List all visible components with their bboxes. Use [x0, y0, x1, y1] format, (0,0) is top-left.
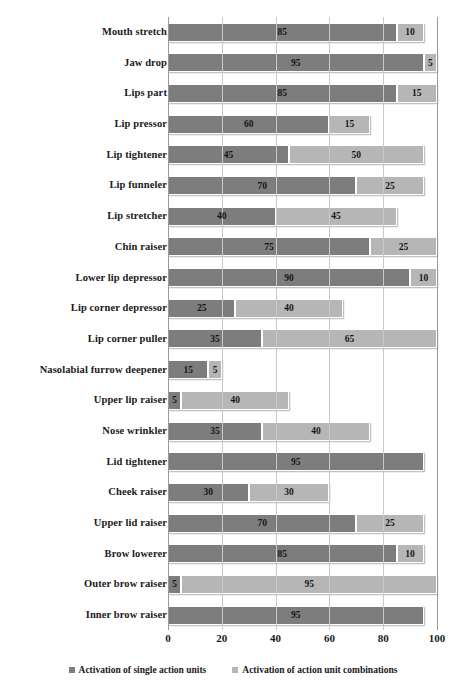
category-label: Lip corner puller	[88, 324, 167, 355]
chart-row: Lower lip depressor9010	[0, 263, 466, 294]
bar-value-label: 50	[352, 150, 362, 160]
bar-segment-dark: 45	[168, 145, 289, 164]
category-label: Mouth stretch	[102, 17, 167, 48]
bar-value-label: 15	[412, 88, 422, 98]
chart-row: Brow lowerer8510	[0, 539, 466, 570]
bar-track: 950	[168, 600, 437, 631]
stacked-bar: 8510	[168, 23, 437, 42]
bar-value-label: 10	[419, 273, 429, 283]
bar-value-label: 25	[385, 518, 395, 528]
category-label: Lower lip depressor	[76, 263, 167, 294]
chart-row: Lip tightener4550	[0, 140, 466, 171]
bar-segment-light: 65	[262, 329, 437, 348]
bar-value-label: 5	[172, 395, 177, 405]
category-label: Chin raiser	[115, 232, 167, 263]
bar-segment-light: 10	[397, 23, 424, 42]
bar-segment-dark: 70	[168, 514, 356, 533]
stacked-bar: 8515	[168, 84, 437, 103]
x-axis-tick-labels: 020406080100	[168, 632, 437, 652]
bar-value-label: 5	[172, 579, 177, 589]
category-label: Lip tightener	[106, 140, 167, 171]
stacked-bar: 3030	[168, 483, 437, 502]
bar-segment-dark: 95	[168, 53, 424, 72]
bar-track: 3565	[168, 324, 437, 355]
bar-value-label: 40	[284, 303, 294, 313]
category-label: Nose wrinkler	[102, 416, 167, 447]
chart-row: Lip corner puller3565	[0, 324, 466, 355]
category-label: Upper lid raiser	[94, 508, 167, 539]
bar-track: 6015	[168, 109, 437, 140]
bar-value-label: 85	[278, 549, 288, 559]
bar-value-label: 15	[183, 365, 193, 375]
bar-track: 955	[168, 48, 437, 79]
bar-track: 4045	[168, 201, 437, 232]
legend-label: Activation of single action units	[79, 665, 207, 675]
bar-value-label: 90	[284, 273, 294, 283]
stacked-bar: 950	[168, 606, 437, 625]
chart-row: Nose wrinkler3540	[0, 416, 466, 447]
category-label: Cheek raiser	[108, 477, 167, 508]
bar-segment-light: 95	[181, 575, 437, 594]
bar-value-label: 15	[345, 119, 355, 129]
chart-row: Mouth stretch8510	[0, 17, 466, 48]
bar-track: 3030	[168, 477, 437, 508]
chart-row: Inner brow raiser950	[0, 600, 466, 631]
bar-value-label: 25	[399, 242, 409, 252]
bar-value-label: 25	[197, 303, 207, 313]
bar-segment-dark: 25	[168, 299, 235, 318]
category-label: Jaw drop	[124, 48, 167, 79]
chart-row: Lip stretcher4045	[0, 201, 466, 232]
bar-segment-light: 45	[276, 207, 397, 226]
stacked-bar: 3565	[168, 329, 437, 348]
bar-segment-dark: 85	[168, 23, 397, 42]
stacked-bar: 595	[168, 575, 437, 594]
x-tick-label: 20	[216, 632, 227, 644]
stacked-bar: 155	[168, 360, 437, 379]
bar-segment-light: 25	[356, 176, 423, 195]
bar-track: 595	[168, 569, 437, 600]
bar-value-label: 70	[257, 518, 267, 528]
bar-value-label: 5	[428, 58, 433, 68]
bar-track: 3540	[168, 416, 437, 447]
stacked-bar: 950	[168, 452, 437, 471]
bar-segment-dark: 35	[168, 422, 262, 441]
bar-value-label: 35	[210, 426, 220, 436]
bar-track: 8510	[168, 17, 437, 48]
bar-value-label: 85	[278, 27, 288, 37]
stacked-bar: 9010	[168, 268, 437, 287]
category-label: Lips part	[124, 78, 167, 109]
x-tick-label: 80	[378, 632, 389, 644]
bar-segment-light: 25	[370, 237, 437, 256]
bar-segment-dark: 5	[168, 575, 181, 594]
bar-value-label: 5	[213, 365, 218, 375]
category-label: Brow lowerer	[105, 539, 167, 570]
x-tick-label: 100	[429, 632, 446, 644]
category-label: Upper lip raiser	[94, 385, 167, 416]
category-label: Lip pressor	[114, 109, 167, 140]
bar-segment-dark: 70	[168, 176, 356, 195]
stacked-bar: 7025	[168, 176, 437, 195]
bar-segment-light: 15	[329, 115, 369, 134]
bar-value-label: 10	[405, 27, 415, 37]
stacked-bar-chart: Mouth stretch8510Jaw drop955Lips part851…	[0, 0, 466, 681]
bar-segment-light: 40	[235, 299, 343, 318]
chart-row: Lid tightener950	[0, 447, 466, 478]
bar-track: 155	[168, 355, 437, 386]
bar-value-label: 25	[385, 181, 395, 191]
legend-item[interactable]: Activation of single action units	[69, 665, 207, 675]
bar-segment-dark: 5	[168, 391, 181, 410]
bar-value-label: 40	[311, 426, 321, 436]
category-label: Nasolabial furrow deepener	[40, 355, 167, 386]
bar-value-label: 95	[291, 58, 301, 68]
bar-segment-dark: 35	[168, 329, 262, 348]
x-tick-label: 40	[270, 632, 281, 644]
legend-item[interactable]: Activation of action unit combinations	[232, 665, 397, 675]
stacked-bar: 6015	[168, 115, 437, 134]
stacked-bar: 7525	[168, 237, 437, 256]
bar-segment-light: 30	[249, 483, 330, 502]
bar-value-label: 70	[257, 181, 267, 191]
bar-segment-dark: 85	[168, 84, 397, 103]
bar-segment-dark: 95	[168, 452, 424, 471]
bar-value-label: 65	[345, 334, 355, 344]
bar-track: 2540	[168, 293, 437, 324]
